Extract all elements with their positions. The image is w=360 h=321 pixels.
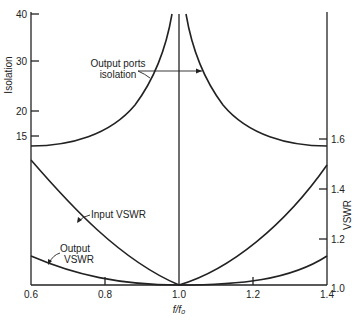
svg-text:1.4: 1.4 bbox=[320, 289, 334, 300]
tick-1.2: 1.2 bbox=[331, 234, 345, 245]
isolation-arrow-left bbox=[138, 71, 150, 78]
left-ticks: 40 30 20 15 bbox=[16, 9, 39, 142]
annotation-output-vswr-line2: VSWR bbox=[64, 254, 94, 265]
isolation-curve-right bbox=[186, 14, 327, 146]
right-axis-label: VSWR bbox=[342, 200, 353, 230]
annotation-output-vswr-line1: Output bbox=[60, 243, 90, 254]
svg-text:0.6: 0.6 bbox=[24, 289, 38, 300]
annotation-isolation-line1: Output ports bbox=[90, 58, 145, 69]
tick-30: 30 bbox=[16, 56, 28, 67]
annotation-input-vswr: Input VSWR bbox=[91, 209, 146, 220]
left-axis-label: Isolation bbox=[3, 56, 14, 93]
svg-text:1.0: 1.0 bbox=[172, 289, 186, 300]
tick-40: 40 bbox=[16, 9, 28, 20]
x-axis-label: f/f₀ bbox=[173, 304, 186, 315]
svg-text:0.8: 0.8 bbox=[98, 289, 112, 300]
tick-1.4: 1.4 bbox=[331, 184, 345, 195]
annotation-isolation-line2: isolation bbox=[100, 69, 137, 80]
tick-20: 20 bbox=[16, 106, 28, 117]
tick-1.6: 1.6 bbox=[331, 134, 345, 145]
tick-15: 15 bbox=[16, 131, 28, 142]
chart: 40 30 20 15 1.6 1.4 1.2 1.0 0.6 0.8 1.0 … bbox=[0, 0, 360, 321]
svg-text:1.2: 1.2 bbox=[246, 289, 260, 300]
isolation-curve-left bbox=[31, 14, 172, 146]
